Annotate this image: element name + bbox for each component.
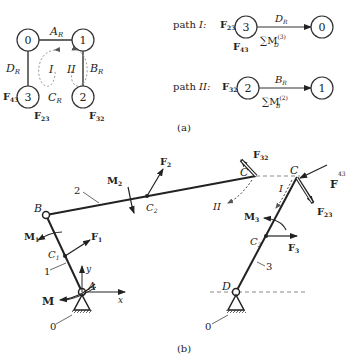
node-2-label: 2 [80, 91, 87, 104]
joint-B [43, 212, 50, 219]
axis-x: x [118, 295, 123, 305]
caption-b: (b) [177, 343, 191, 354]
moment-M2-label: M2 [107, 175, 122, 187]
loop-II-mech-arrow [228, 180, 252, 203]
node-1-label: 1 [80, 34, 87, 47]
path-I: path I: F23 3 0 DR F43 ∑M(3)D [173, 13, 333, 53]
edge-c-label: CR [48, 91, 62, 105]
graph: 0 1 2 3 AR BR CR DR I II F43 F23 F32 [3, 25, 104, 122]
path-I-to: 0 [319, 21, 326, 34]
force-F1-arrow [65, 240, 90, 256]
path-I-from: 3 [243, 21, 250, 34]
edge-b-label: BR [89, 62, 104, 76]
path-II: path II: F32 2 1 BR ∑M(2)B [173, 74, 333, 109]
link-2-label: 2 [74, 185, 80, 196]
path-I-below: F43 [233, 41, 248, 53]
force-F1-label: F1 [91, 231, 102, 243]
point-C3: C3 [250, 236, 262, 248]
loop-I-mech-label: I [278, 183, 284, 194]
path-I-edge: DR [274, 13, 288, 25]
node-0-label: 0 [25, 34, 32, 47]
path-I-sum: ∑M(3)D [260, 33, 286, 48]
ground-0-label-a: 0 [50, 321, 56, 332]
force-F3-label: F3 [288, 242, 299, 254]
node-3-label: 3 [25, 91, 32, 104]
path-II-force: F32 [222, 81, 237, 93]
point-B: B [33, 202, 42, 215]
graph-f43: F43 [3, 91, 18, 103]
caption-a: (a) [177, 122, 191, 133]
moment-M-label: M [42, 295, 54, 308]
force-F2-label: F2 [160, 156, 171, 168]
graph-f32: F32 [89, 110, 104, 122]
moment-M1-label: M1 [24, 231, 39, 243]
force-F43-label: F [330, 178, 338, 191]
force-F43-arrow [300, 165, 327, 178]
edge-d-label: DR [5, 62, 21, 76]
moment-M3-label: M3 [244, 211, 259, 223]
force-F43-sup: 43 [338, 170, 346, 177]
loop-I-label: I [48, 63, 54, 76]
path-I-label: path I: [173, 19, 206, 30]
link-3-label: 3 [266, 261, 272, 272]
diagram-canvas: 0 1 2 3 AR BR CR DR I II F43 F23 F32 pat… [0, 0, 356, 359]
loop-II-mech-label: II [212, 201, 222, 212]
graph-f23: F23 [34, 110, 49, 122]
axis-y: y [85, 264, 92, 274]
force-F23-label: F23 [317, 206, 332, 218]
path-I-force: F23 [220, 19, 235, 31]
point-C-link3: C [290, 164, 299, 177]
link-1-label: 1 [44, 266, 50, 277]
path-II-edge: BR [274, 74, 287, 86]
point-C1: C1 [48, 249, 59, 261]
path-II-from: 2 [245, 82, 252, 95]
path-II-sum: ∑M(2)B [262, 94, 288, 109]
moment-M1-arrow [38, 232, 62, 240]
force-F23-arrow [297, 178, 313, 203]
edge-a-label: AR [49, 25, 64, 39]
path-II-to: 1 [319, 82, 326, 95]
ground-D [226, 295, 246, 313]
path-II-label: path II: [173, 81, 210, 92]
ground-0-label-d: 0 [205, 321, 211, 332]
point-D: D [221, 280, 231, 293]
point-C2: C2 [146, 202, 158, 214]
force-F32-label: F32 [253, 149, 268, 161]
loop-II-label: II [66, 63, 76, 76]
force-F2-arrow [147, 169, 163, 196]
moment-M3-arrow [264, 218, 286, 230]
